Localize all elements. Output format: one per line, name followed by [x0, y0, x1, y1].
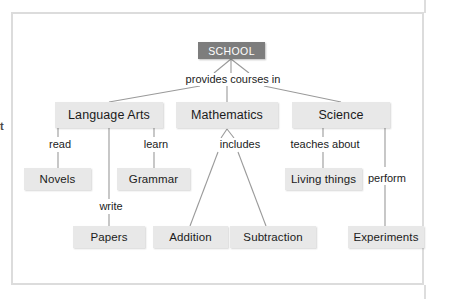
- node-mathematics-label: Mathematics: [191, 108, 263, 122]
- node-school[interactable]: SCHOOL: [198, 42, 265, 59]
- node-subtraction-label: Subtraction: [243, 231, 302, 243]
- node-experiments[interactable]: Experiments: [348, 226, 424, 248]
- node-grammar-label: Grammar: [129, 173, 178, 185]
- node-addition[interactable]: Addition: [153, 226, 228, 248]
- node-papers[interactable]: Papers: [73, 226, 145, 248]
- link-phrase-provides-courses-in-label: provides courses in: [186, 73, 281, 85]
- link-phrase-includes-label: includes: [220, 138, 260, 150]
- link-phrase-includes: includes: [194, 138, 286, 151]
- node-novels[interactable]: Novels: [24, 168, 91, 190]
- link-phrase-learn: learn: [126, 138, 186, 151]
- node-experiments-label: Experiments: [353, 231, 418, 243]
- node-mathematics[interactable]: Mathematics: [176, 102, 278, 128]
- link-phrase-learn-label: learn: [144, 138, 168, 150]
- node-language-arts-label: Language Arts: [68, 108, 150, 122]
- node-school-label: SCHOOL: [208, 45, 255, 57]
- concept-map-canvas: t SCHOOL: [0, 0, 452, 299]
- page-edge-rule-top: [424, 0, 426, 13]
- node-science[interactable]: Science: [292, 102, 390, 128]
- link-phrase-read: read: [30, 138, 90, 151]
- margin-glyph: t: [0, 120, 9, 132]
- link-phrase-provides-courses-in: provides courses in: [172, 73, 294, 86]
- node-novels-label: Novels: [40, 173, 76, 185]
- link-phrase-write: write: [84, 200, 138, 213]
- link-phrase-perform-label: perform: [368, 172, 406, 184]
- link-phrase-teaches-about: teaches about: [281, 138, 369, 151]
- link-phrase-teaches-about-label: teaches about: [290, 138, 359, 150]
- link-phrase-write-label: write: [99, 200, 122, 212]
- node-subtraction[interactable]: Subtraction: [230, 226, 316, 248]
- node-addition-label: Addition: [169, 231, 211, 243]
- node-papers-label: Papers: [90, 231, 127, 243]
- link-phrase-read-label: read: [49, 138, 71, 150]
- node-grammar[interactable]: Grammar: [117, 168, 190, 190]
- page-edge-rule-bottom: [424, 285, 426, 299]
- node-living-things[interactable]: Living things: [285, 168, 362, 190]
- node-science-label: Science: [318, 108, 363, 122]
- link-phrase-perform: perform: [366, 172, 422, 185]
- node-living-things-label: Living things: [291, 173, 356, 185]
- node-language-arts[interactable]: Language Arts: [55, 102, 163, 128]
